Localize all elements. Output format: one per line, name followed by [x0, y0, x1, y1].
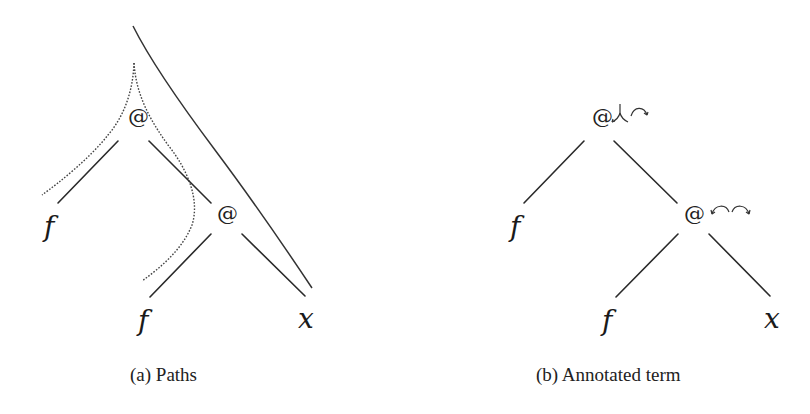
- edge-inner-to-x: [709, 234, 770, 296]
- subfigure-b-annotated: @ @ f f x: [508, 104, 780, 337]
- curved-arrow-right-icon: [732, 206, 750, 214]
- edge-inner-to-f: [150, 234, 211, 297]
- edge-root-to-left-f: [524, 141, 584, 203]
- curved-arrow-icon: [631, 108, 648, 116]
- edge-inner-to-f: [616, 234, 678, 297]
- fork-arrow-icon: [612, 104, 628, 122]
- caption-a: (a) Paths: [130, 364, 197, 386]
- edge-root-to-left-f: [58, 141, 118, 203]
- edge-root-to-inner: [149, 141, 211, 203]
- leaf-x: x: [764, 302, 780, 335]
- figure: @ @ f f x @ @ f f x: [0, 0, 810, 414]
- curved-arrow-left-icon: [711, 206, 729, 214]
- edge-root-to-inner: [614, 141, 677, 203]
- leaf-x: x: [298, 302, 314, 335]
- leaf-inner-f: f: [600, 304, 617, 337]
- solid-path-to-x: [133, 26, 312, 288]
- node-inner-app: @: [684, 202, 705, 226]
- node-root-app: @: [128, 105, 149, 129]
- subfigure-a-paths: @ @ f f x: [42, 26, 314, 337]
- node-inner-app: @: [217, 202, 238, 226]
- leaf-left-f: f: [42, 210, 59, 243]
- leaf-inner-f: f: [136, 304, 153, 337]
- node-root-app: @: [592, 105, 613, 129]
- caption-b: (b) Annotated term: [536, 364, 681, 386]
- dotted-path-to-inner-f: [134, 63, 195, 281]
- dotted-path-to-left-f: [42, 63, 134, 195]
- tree-diagrams: @ @ f f x @ @ f f x: [0, 0, 810, 414]
- leaf-left-f: f: [508, 210, 525, 243]
- edge-inner-to-x: [242, 234, 305, 296]
